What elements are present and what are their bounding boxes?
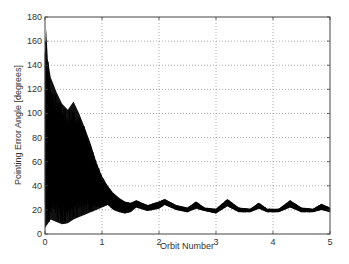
- y-tick-label: 180: [27, 12, 42, 22]
- pointing-error-chart: 020406080100120140160180 012345 Orbit Nu…: [0, 0, 349, 264]
- y-tick-label: 20: [32, 205, 42, 215]
- x-axis-label: Orbit Number: [160, 241, 214, 251]
- data-series: [45, 29, 330, 228]
- y-tick-label: 60: [32, 157, 42, 167]
- x-tick-label: 1: [99, 237, 104, 247]
- y-tick-label: 160: [27, 36, 42, 46]
- y-tick-label: 100: [27, 108, 42, 118]
- y-tick-label: 0: [37, 229, 42, 239]
- x-tick-label: 5: [327, 237, 332, 247]
- y-tick-label: 140: [27, 60, 42, 70]
- y-tick-label: 40: [32, 181, 42, 191]
- x-tick-label: 4: [270, 237, 275, 247]
- x-tick-label: 0: [42, 237, 47, 247]
- y-axis-label: Pointing Error Angle [degrees]: [13, 65, 23, 185]
- y-tick-label: 120: [27, 84, 42, 94]
- y-tick-label: 80: [32, 133, 42, 143]
- x-tick-label: 3: [213, 237, 218, 247]
